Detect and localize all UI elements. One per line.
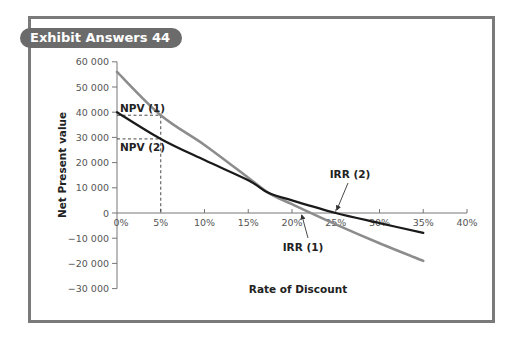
y-tick-label: 50 000 [76, 82, 109, 93]
irr2-label: IRR (2) [330, 168, 371, 180]
x-tick-label: 20% [281, 217, 302, 228]
x-tick-label: 15% [238, 217, 259, 228]
irr1-label: IRR (1) [283, 241, 324, 253]
y-axis-title: Net Present value [56, 112, 68, 218]
irr2-arrow [337, 183, 348, 210]
npv2-label: NPV (2) [120, 141, 165, 153]
y-tick-label: −30 000 [68, 283, 109, 294]
x-axis-title: Rate of Discount [249, 283, 347, 295]
x-tick-label: 40% [456, 217, 477, 228]
x-tick-label: 5% [153, 217, 168, 228]
y-tick-label: 40 000 [76, 107, 109, 118]
series-line-1 [117, 72, 423, 261]
dashed-guides [117, 115, 161, 213]
y-tick-label: −10 000 [68, 233, 109, 244]
y-tick-label: 20 000 [76, 157, 109, 168]
npv-chart: 60 00050 00040 00030 00020 00010 0000−10… [0, 0, 519, 343]
y-tick-label: 10 000 [76, 182, 109, 193]
y-tick-label: −20 000 [68, 258, 109, 269]
series-lines [117, 72, 423, 261]
irr1-arrow [302, 215, 308, 238]
x-tick-label: 0% [113, 217, 128, 228]
x-tick-label: 10% [194, 217, 215, 228]
npv1-label: NPV (1) [120, 102, 165, 114]
y-tick-label: 60 000 [76, 56, 109, 67]
y-tick-label: 0 [103, 208, 109, 219]
x-tick-label: 35% [413, 217, 434, 228]
series-line-2 [117, 112, 423, 233]
y-tick-label: 30 000 [76, 132, 109, 143]
